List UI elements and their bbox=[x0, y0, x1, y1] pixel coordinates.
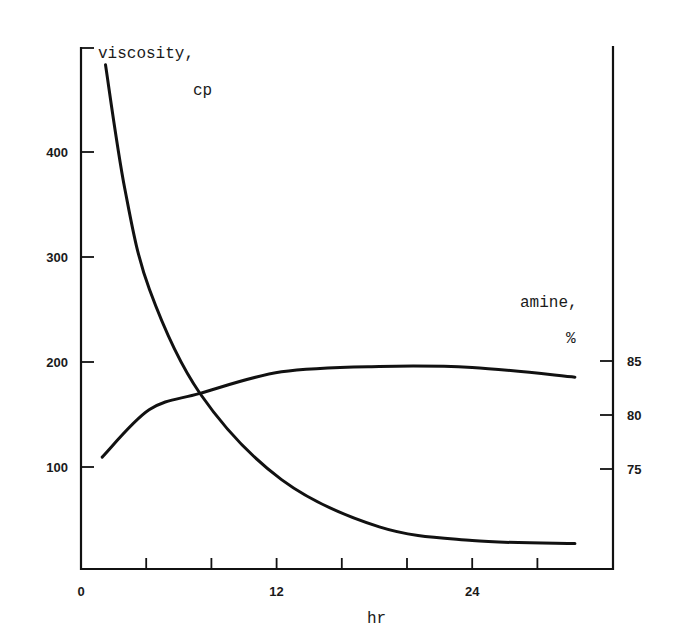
left-y-tick-label: 300 bbox=[46, 250, 68, 265]
amine-curve bbox=[102, 366, 575, 457]
left-y-tick-label: 400 bbox=[46, 145, 68, 160]
x-axis-ticks bbox=[146, 558, 537, 569]
right-axis-title-line2: % bbox=[566, 330, 576, 348]
left-axis-title-line2: cp bbox=[193, 82, 212, 100]
left-y-tick-label: 200 bbox=[46, 355, 68, 370]
left-y-tick-label: 100 bbox=[46, 460, 68, 475]
right-axis-title-line1: amine, bbox=[520, 294, 578, 312]
right-y-tick-label: 85 bbox=[627, 354, 641, 369]
chart-canvas: 01224 100200300400 758085 viscosity, cp … bbox=[0, 0, 678, 643]
left-axis-title-line1: viscosity, bbox=[98, 45, 194, 63]
viscosity-curve bbox=[106, 65, 575, 544]
right-y-axis-ticks: 758085 bbox=[600, 354, 641, 477]
right-y-tick-label: 80 bbox=[627, 408, 641, 423]
x-tick-label: 0 bbox=[77, 584, 84, 599]
x-axis-title: hr bbox=[367, 610, 386, 628]
right-y-tick-label: 75 bbox=[627, 462, 641, 477]
left-y-axis-ticks: 100200300400 bbox=[46, 145, 94, 475]
x-tick-label: 12 bbox=[269, 584, 283, 599]
x-axis-tick-labels: 01224 bbox=[77, 584, 480, 599]
x-tick-label: 24 bbox=[465, 584, 480, 599]
